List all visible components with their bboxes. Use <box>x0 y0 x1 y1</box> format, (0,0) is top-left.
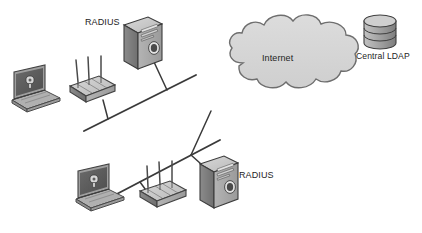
database-cylinder-icon <box>364 15 396 49</box>
cloud-icon <box>230 15 358 88</box>
wireless-access-point-icon <box>70 56 115 102</box>
server-tower-icon <box>124 17 162 69</box>
droplink-server-bottom <box>191 155 210 172</box>
laptop-icon <box>12 65 60 112</box>
central-ldap-label: Central LDAP <box>356 51 410 61</box>
radius-server-bottom-label: RADIUS <box>239 170 274 180</box>
backbone-riser <box>191 111 211 155</box>
backbone-lower-bus <box>113 140 220 196</box>
droplink-ap-bottom <box>140 182 156 204</box>
droplink-server-top <box>154 62 167 90</box>
diagram-canvas <box>0 0 422 233</box>
radius-server-top-label: RADIUS <box>85 17 120 27</box>
internet-cloud-label: Internet <box>262 53 293 63</box>
server-dial <box>149 42 160 55</box>
network-diagram-figure: RADIUS RADIUS Internet Central LDAP <box>0 0 422 233</box>
droplink-ap-top <box>103 100 108 119</box>
